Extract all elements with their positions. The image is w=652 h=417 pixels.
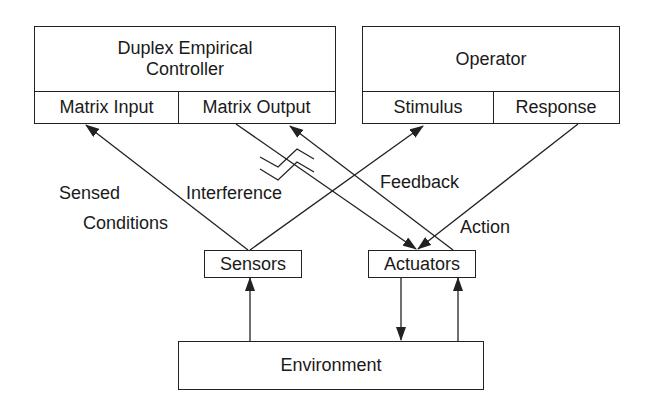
environment-label: Environment: [280, 355, 381, 376]
sensors-label: Sensors: [220, 254, 286, 275]
controller-title-line1: Duplex Empirical: [117, 38, 252, 59]
interference-zigzag-lower: [260, 162, 314, 180]
sensed-label-line1: Sensed: [59, 183, 120, 203]
feedback-label: Feedback: [380, 172, 459, 192]
matrix-output-port: Matrix Output: [178, 91, 335, 124]
operator-title: Operator: [363, 27, 619, 91]
controller-title: Duplex Empirical Controller: [35, 27, 335, 91]
controller-title-line2: Controller: [146, 59, 224, 80]
interference-label: Interference: [186, 183, 282, 203]
controller-box: Duplex Empirical Controller Matrix Input…: [34, 26, 336, 124]
sensors-box: Sensors: [204, 250, 302, 278]
actuators-box: Actuators: [368, 250, 476, 278]
interference-zigzag-upper: [260, 149, 314, 167]
response-port: Response: [493, 91, 619, 124]
actuators-label: Actuators: [384, 254, 460, 275]
matrix-input-port: Matrix Input: [35, 91, 178, 124]
environment-box: Environment: [178, 341, 484, 390]
action-label: Action: [460, 217, 510, 237]
stimulus-port: Stimulus: [363, 91, 493, 124]
operator-box: Operator Stimulus Response: [362, 26, 620, 124]
sensed-label-line2: Conditions: [83, 213, 168, 233]
